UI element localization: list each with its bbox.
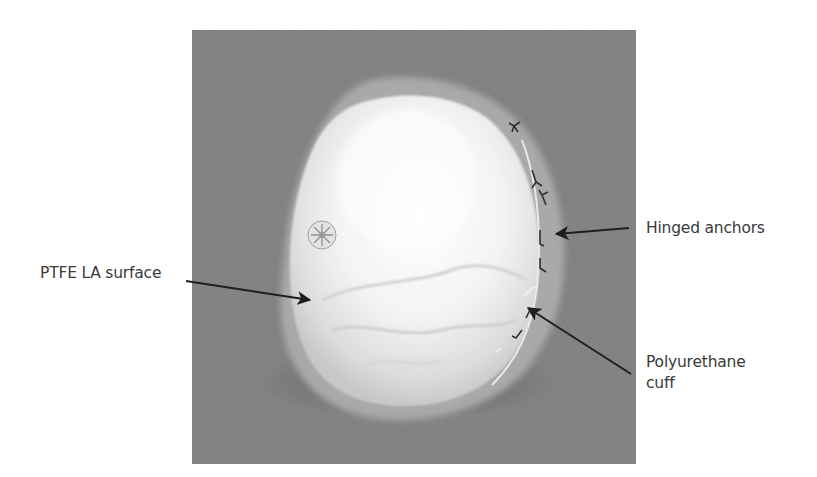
label-cuff-line1: Polyurethane (646, 352, 766, 373)
device-illustration (192, 30, 636, 464)
label-cuff-line2: cuff (646, 373, 766, 394)
device-photo (192, 30, 636, 464)
label-ptfe-la-surface: PTFE LA surface (40, 263, 161, 284)
central-hub (308, 221, 336, 249)
label-hinged-anchors: Hinged anchors (646, 218, 765, 239)
label-polyurethane-cuff: Polyurethane cuff (646, 352, 766, 394)
annotated-figure: PTFE LA surface Hinged anchors Polyureth… (0, 0, 817, 477)
